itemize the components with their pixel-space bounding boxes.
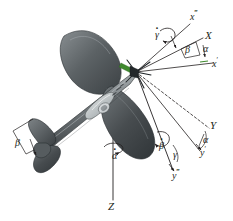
nose-hub (130, 66, 139, 78)
angle-label-gamma-lower-right: γ (173, 150, 177, 160)
angle-wedge-beta-upper-right (181, 42, 200, 58)
angle-label-beta-left-wing: β (15, 138, 20, 148)
axis-label-y-prime: y′ (200, 147, 206, 158)
angle-label-alpha-upper-right: α (203, 44, 208, 54)
rate-label-gamma-dot: γ (155, 30, 159, 40)
axis-label-x-prime: x′ (212, 58, 218, 69)
angle-label-beta-upper-right: β (185, 45, 190, 55)
rate-label-alpha-dot: α (112, 151, 117, 161)
angle-label-alpha-right: α (203, 135, 208, 145)
aircraft-euler-angle-diagram: x‴ X x′ Y y′ y‴ Z α β α γ β γ β α (0, 0, 233, 221)
axis-label-z: Z (108, 201, 114, 212)
axis-label-y-capital: Y (210, 120, 216, 131)
wing-upper-left (60, 31, 121, 95)
x-prime-green-tick (200, 61, 208, 62)
rate-label-beta-dot: β (159, 141, 164, 151)
arrow-to-x-capital (171, 36, 176, 48)
diagram-canvas (0, 0, 233, 221)
axis-label-x-capital: X (205, 30, 212, 41)
tailplane-upper (28, 119, 55, 147)
axis-label-y-triple-prime: y‴ (172, 170, 179, 181)
axis-label-x-triple-prime: x‴ (190, 11, 197, 22)
axis-line-x-triple-prime (136, 24, 190, 72)
rotation-arrow-gamma-dot (160, 28, 175, 42)
aircraft-figure (28, 31, 154, 173)
